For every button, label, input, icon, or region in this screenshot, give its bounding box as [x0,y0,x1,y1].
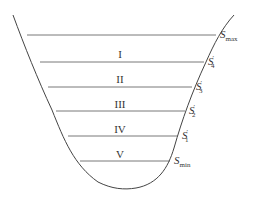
level-label-smax: Smax [220,28,238,43]
reservoir-svg: SmaxS′4S′3S′2S′1Smin IIIIIIIVV [0,0,254,200]
zone-label-2: II [116,73,124,85]
level-label-s1: S′1 [182,128,189,144]
level-label-s3: S′3 [196,79,203,95]
level-label-s2: S′2 [189,103,196,119]
level-label-smin: Smin [174,154,191,169]
water-level-lines: SmaxS′4S′3S′2S′1Smin [27,28,238,169]
zone-label-4: IV [114,123,126,135]
zone-label-5: V [116,148,124,160]
level-label-s4: S′4 [208,54,215,70]
reservoir-diagram: SmaxS′4S′3S′2S′1Smin IIIIIIIVV [0,0,254,200]
zone-labels: IIIIIIIVV [114,48,126,160]
zone-label-3: III [115,98,126,110]
zone-label-1: I [118,48,122,60]
